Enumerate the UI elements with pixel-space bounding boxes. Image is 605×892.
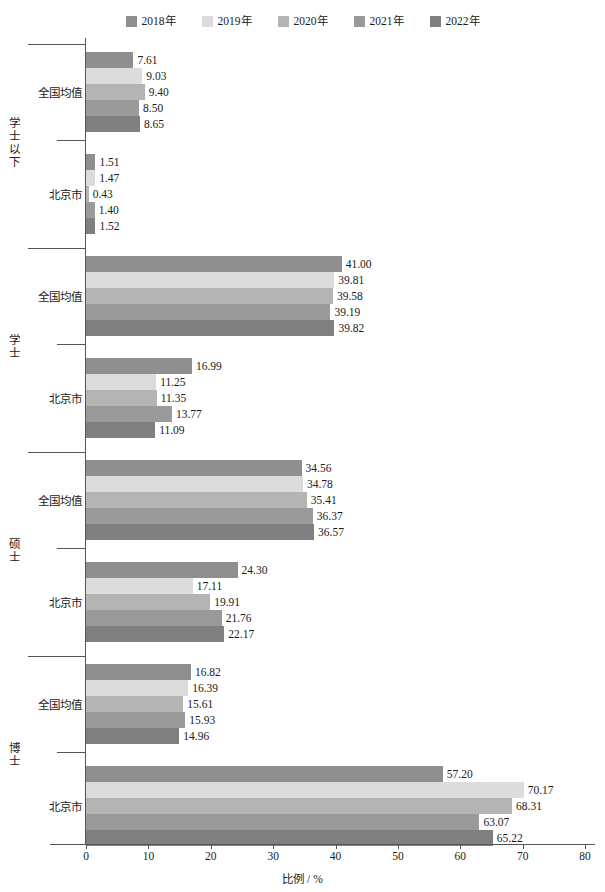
bar-value-label: 68.31 [516,798,542,814]
legend-label: 2018年 [142,16,176,28]
bar-value-label: 17.11 [197,578,222,594]
bar[interactable] [86,170,95,186]
bar[interactable] [86,696,183,712]
subgroup-label: 北京市 [28,594,82,610]
bar-value-label: 39.82 [338,320,364,336]
bar[interactable] [86,68,142,84]
group-separator [28,452,85,453]
bar[interactable] [86,304,330,320]
bar[interactable] [86,52,133,68]
bar[interactable] [86,202,95,218]
bar[interactable] [86,798,512,814]
x-axis-tick-label: 70 [517,850,529,862]
bar[interactable] [86,508,313,524]
bar-value-label: 57.20 [447,766,473,782]
group-label: 学士 [0,248,28,446]
x-axis-tick-label: 50 [392,850,404,862]
bar-value-label: 15.61 [187,696,213,712]
bar-value-label: 39.19 [334,304,360,320]
bar[interactable] [86,272,334,288]
bar[interactable] [86,680,188,696]
bar-value-label: 0.43 [93,186,113,202]
bar[interactable] [86,288,333,304]
legend-item[interactable]: 2021年 [354,16,404,28]
bar-value-label: 9.40 [149,84,169,100]
x-axis-tick [148,844,149,849]
bar-value-label: 36.37 [317,508,343,524]
bar[interactable] [86,84,145,100]
bar-value-label: 63.07 [483,814,509,830]
bar[interactable] [86,626,224,642]
x-axis-tick-label: 0 [83,850,89,862]
bar[interactable] [86,390,157,406]
bar[interactable] [86,578,193,594]
bar[interactable] [86,186,89,202]
legend-item[interactable]: 2019年 [202,16,252,28]
bar[interactable] [86,782,524,798]
bar[interactable] [86,492,307,508]
legend-label: 2020年 [294,16,328,28]
bar-value-label: 13.77 [176,406,202,422]
bar[interactable] [86,728,179,744]
x-axis-tick-label: 30 [267,850,279,862]
x-axis-tick [273,844,274,849]
bar-value-label: 39.58 [337,288,363,304]
x-axis-tick-label: 60 [455,850,467,862]
bar[interactable] [86,320,334,336]
bar[interactable] [86,814,479,830]
bar[interactable] [86,218,95,234]
legend-swatch-icon [354,16,365,27]
bar[interactable] [86,116,140,132]
bar[interactable] [86,664,191,680]
bar[interactable] [86,374,156,390]
group-label: 博士 [0,656,28,854]
legend-item[interactable]: 2022年 [430,16,480,28]
x-axis-tick [460,844,461,849]
bar-value-label: 1.52 [99,218,119,234]
subgroup-separator [57,548,85,549]
bar-value-label: 1.40 [99,202,119,218]
legend-item[interactable]: 2020年 [278,16,328,28]
bar[interactable] [86,524,314,540]
bar[interactable] [86,610,222,626]
subgroup-label: 北京市 [28,390,82,406]
bar-value-label: 39.81 [338,272,364,288]
legend-label: 2021年 [370,16,404,28]
subgroup-label: 全国均值 [28,696,82,712]
group-separator [28,656,85,657]
bar[interactable] [86,256,342,272]
subgroup-label: 全国均值 [28,288,82,304]
bar-value-label: 15.93 [189,712,215,728]
bar[interactable] [86,562,238,578]
bar-value-label: 34.78 [307,476,333,492]
x-axis-tick [585,844,586,849]
chart-legend: 2018年2019年2020年2021年2022年 [0,16,605,28]
bar[interactable] [86,422,155,438]
bar[interactable] [86,766,443,782]
bar-value-label: 16.82 [195,664,221,680]
bar[interactable] [86,460,302,476]
x-axis-title: 比例 / % [0,870,605,886]
x-axis-tick [398,844,399,849]
bar[interactable] [86,594,210,610]
bar-value-label: 8.50 [143,100,163,116]
bar[interactable] [86,358,192,374]
x-axis-tick-label: 20 [205,850,217,862]
legend-swatch-icon [126,16,137,27]
bar[interactable] [86,712,185,728]
bar[interactable] [86,406,172,422]
x-axis-line [50,844,595,845]
subgroup-label: 全国均值 [28,84,82,100]
bar[interactable] [86,100,139,116]
bar-value-label: 11.09 [159,422,184,438]
bar-value-label: 9.03 [146,68,166,84]
bar[interactable] [86,476,303,492]
bar[interactable] [86,154,95,170]
bar-value-label: 35.41 [311,492,337,508]
subgroup-separator [57,752,85,753]
legend-item[interactable]: 2018年 [126,16,176,28]
bar-value-label: 16.99 [196,358,222,374]
legend-swatch-icon [202,16,213,27]
x-axis-tick-label: 80 [579,850,591,862]
subgroup-separator [57,140,85,141]
